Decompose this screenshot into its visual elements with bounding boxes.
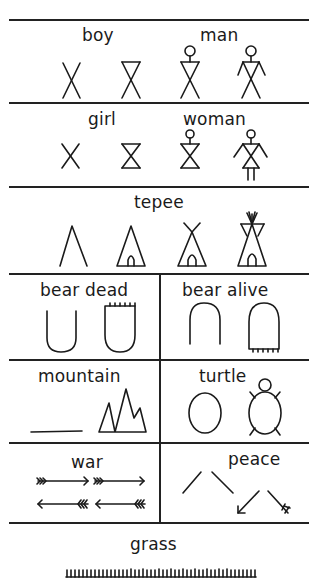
peace-glyph-1-icon	[183, 472, 233, 493]
boy-glyph-2-icon	[122, 62, 140, 98]
tepee-glyph-3-icon	[178, 223, 206, 266]
man-glyph-2-icon	[238, 46, 265, 98]
man-glyph-1-icon	[181, 46, 199, 98]
tepee-glyph-1-icon	[60, 226, 87, 266]
turtle-glyph-1-icon	[189, 393, 221, 433]
grass-glyph-icon	[66, 569, 256, 577]
woman-glyph-1-icon	[181, 130, 199, 168]
peace-glyph-2-icon	[238, 491, 290, 513]
woman-glyph-2-icon	[234, 130, 267, 180]
bear-dead-glyph-2-icon	[105, 303, 135, 352]
war-arrow-right-1-icon	[37, 477, 88, 485]
turtle-glyph-2-icon	[249, 379, 281, 435]
tepee-glyph-2-icon	[117, 226, 145, 266]
war-arrow-right-2-icon	[94, 477, 144, 485]
war-arrow-left-2-icon	[96, 500, 145, 508]
bear-dead-glyph-1-icon	[47, 311, 76, 352]
boy-glyph-1-icon	[63, 63, 80, 98]
tepee-glyph-4-icon	[238, 212, 266, 266]
mountain-glyph-2-icon	[99, 389, 146, 432]
war-arrow-left-1-icon	[38, 500, 88, 508]
bear-alive-glyph-2-icon	[249, 303, 279, 352]
girl-glyph-1-icon	[62, 144, 79, 168]
girl-glyph-2-icon	[122, 144, 140, 168]
mountain-glyph-1-icon	[31, 431, 82, 432]
bear-alive-glyph-1-icon	[190, 303, 220, 344]
